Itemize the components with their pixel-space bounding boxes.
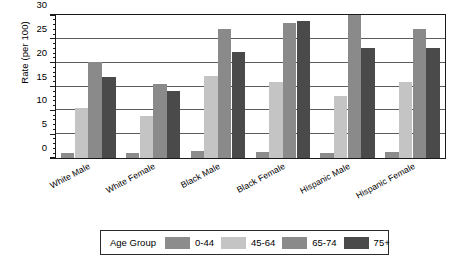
bar <box>283 23 296 158</box>
bar <box>191 151 204 158</box>
y-axis-tick-label: 30 <box>36 0 47 10</box>
y-axis-minor-tick <box>53 143 56 144</box>
y-axis-minor-tick <box>53 91 56 92</box>
legend-swatch <box>282 237 307 249</box>
y-axis-tick <box>50 110 56 111</box>
y-axis-minor-tick <box>53 57 56 58</box>
bar <box>75 108 88 158</box>
bar-chart-figure: Rate (per 100) 051015202530 White MaleWh… <box>0 0 470 267</box>
plot-inner: 051015202530 <box>56 15 445 158</box>
y-axis-minor-tick <box>53 19 56 20</box>
bar <box>167 91 180 158</box>
legend-swatch <box>344 237 369 249</box>
gridline <box>56 62 445 63</box>
bar <box>269 82 282 158</box>
y-axis-minor-tick <box>53 105 56 106</box>
y-axis-minor-tick <box>53 48 56 49</box>
y-axis-minor-tick <box>53 72 56 73</box>
bar <box>348 15 361 158</box>
bar <box>297 21 310 158</box>
y-axis-minor-tick <box>53 100 56 101</box>
bar <box>320 153 333 158</box>
gridline <box>56 38 445 39</box>
bar <box>256 152 269 158</box>
y-axis-tick-label: 5 <box>42 118 47 129</box>
y-axis-minor-tick <box>53 67 56 68</box>
y-axis-minor-tick <box>53 124 56 125</box>
bar <box>153 84 166 158</box>
bar <box>88 62 101 158</box>
legend-entries: 0-4445-6465-7475+ <box>165 237 397 249</box>
bar <box>334 96 347 158</box>
bar <box>126 153 139 158</box>
y-axis-minor-tick <box>53 29 56 30</box>
y-axis-minor-tick <box>53 138 56 139</box>
bar <box>361 48 374 158</box>
bar <box>140 116 153 158</box>
bar <box>204 76 217 158</box>
plot-area: 051015202530 <box>55 14 446 159</box>
legend-swatch <box>221 237 246 249</box>
y-axis-minor-tick <box>53 34 56 35</box>
legend-label: 75+ <box>374 237 390 248</box>
y-axis-minor-tick <box>53 119 56 120</box>
y-axis-tick <box>50 86 56 87</box>
legend-swatch <box>165 237 190 249</box>
y-axis-tick-label: 20 <box>36 46 47 57</box>
legend-entry: 45-64 <box>221 237 275 249</box>
y-axis-minor-tick <box>53 24 56 25</box>
bar <box>232 52 245 158</box>
bar <box>399 82 412 158</box>
x-axis-label: Hispanic Female <box>279 161 416 240</box>
y-axis-tick-label: 0 <box>42 142 47 153</box>
bar <box>61 153 74 158</box>
y-axis-minor-tick <box>53 153 56 154</box>
y-axis-tick-label: 25 <box>36 22 47 33</box>
bar <box>426 48 439 158</box>
legend-entry: 65-74 <box>282 237 336 249</box>
y-axis-tick <box>50 157 56 158</box>
y-axis-minor-tick <box>53 81 56 82</box>
y-axis-title: Rate (per 100) <box>19 0 30 123</box>
y-axis-minor-tick <box>53 115 56 116</box>
y-axis-tick-label: 10 <box>36 94 47 105</box>
chart-legend: Age Group 0-4445-6465-7475+ <box>100 230 389 255</box>
legend-label: 0-44 <box>195 237 214 248</box>
y-axis-minor-tick <box>53 76 56 77</box>
legend-entry: 0-44 <box>165 237 214 249</box>
bar <box>218 29 231 158</box>
y-axis-tick <box>50 14 56 15</box>
y-axis-minor-tick <box>53 148 56 149</box>
y-axis-tick <box>50 38 56 39</box>
legend-label: 65-74 <box>312 237 336 248</box>
legend-label: 45-64 <box>251 237 275 248</box>
bar <box>102 77 115 158</box>
legend-title: Age Group <box>110 237 156 248</box>
bar <box>385 152 398 158</box>
legend-row: Age Group 0-4445-6465-7475+ <box>101 231 388 254</box>
y-axis-tick <box>50 134 56 135</box>
y-axis-minor-tick <box>53 96 56 97</box>
bar <box>413 29 426 158</box>
y-axis-tick <box>50 62 56 63</box>
legend-entry: 75+ <box>344 237 390 249</box>
y-axis-minor-tick <box>53 129 56 130</box>
y-axis-minor-tick <box>53 43 56 44</box>
y-axis-minor-tick <box>53 53 56 54</box>
y-axis-tick-label: 15 <box>36 70 47 81</box>
